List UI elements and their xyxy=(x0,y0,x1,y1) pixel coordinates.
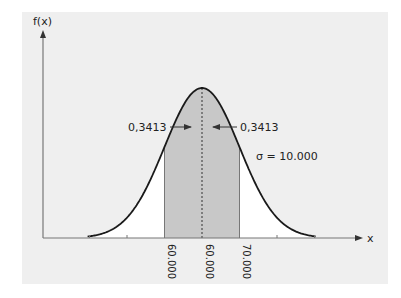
y-axis-arrow-icon xyxy=(40,30,46,38)
x-tick-label-2: 60.000 xyxy=(204,244,215,279)
x-axis-label: x xyxy=(367,232,374,245)
sigma-label: σ = 10.000 xyxy=(256,150,318,163)
right-probability-label: 0,3413 xyxy=(240,121,279,134)
normal-distribution-chart: f(x) x 0,3413 0,3413 σ = 10.000 60.000 6… xyxy=(0,0,401,298)
x-axis-arrow-icon xyxy=(355,235,363,241)
shaded-probability-region xyxy=(165,88,240,238)
y-axis-label: f(x) xyxy=(33,15,52,28)
x-tick-label-1: 60.000 xyxy=(166,244,177,279)
left-probability-label: 0,3413 xyxy=(128,121,167,134)
x-tick-label-3: 70.000 xyxy=(241,244,252,279)
